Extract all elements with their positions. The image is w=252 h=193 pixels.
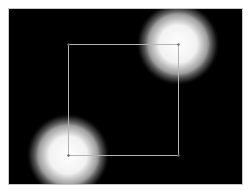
- vertex-handle[interactable]: [177, 154, 179, 156]
- vertex-handle[interactable]: [67, 43, 69, 45]
- vertex-handle[interactable]: [177, 43, 179, 45]
- scene-overlay: [0, 0, 252, 193]
- lights-layer: [26, 2, 220, 193]
- vertex-handle[interactable]: [67, 154, 69, 156]
